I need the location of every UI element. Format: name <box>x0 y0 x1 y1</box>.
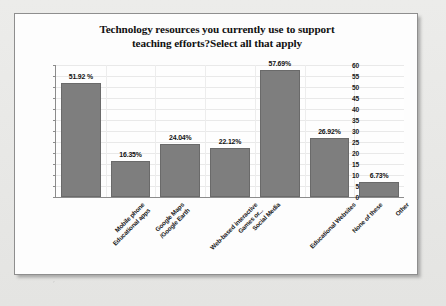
y-tick-mark <box>53 197 56 198</box>
bar-value-label: 16.35% <box>106 151 156 158</box>
category-label: Google Maps/Google Earth <box>152 201 191 240</box>
chart-title: Technology resources you currently use t… <box>27 22 407 50</box>
category-label: Mobile phoneEducational apps <box>105 201 151 247</box>
chart-title-line-2: teaching efforts?Select all that apply <box>27 36 407 50</box>
bar-value-label: 22.12% <box>205 138 255 145</box>
bar-value-label: 57.69% <box>255 60 305 67</box>
chart-frame: Technology resources you currently use t… <box>14 13 418 275</box>
plot-area: 051015202530354045505560 51.92 %16.35%24… <box>56 65 404 197</box>
bar[interactable] <box>111 161 151 197</box>
chart-title-line-1: Technology resources you currently use t… <box>27 22 407 36</box>
bar-value-label: 6.73% <box>354 172 404 179</box>
bar[interactable] <box>260 70 300 197</box>
category-label: Other <box>394 201 411 218</box>
category-label: Educational Websites <box>308 201 357 250</box>
bar[interactable] <box>210 148 250 197</box>
bar-value-label: 51.92 % <box>56 73 106 80</box>
bar[interactable] <box>359 182 399 197</box>
bar-value-label: 26.92% <box>305 128 355 135</box>
bar[interactable] <box>160 144 200 197</box>
bar-value-label: 24.04% <box>155 134 205 141</box>
bar[interactable] <box>310 138 350 197</box>
bar[interactable] <box>61 83 101 197</box>
